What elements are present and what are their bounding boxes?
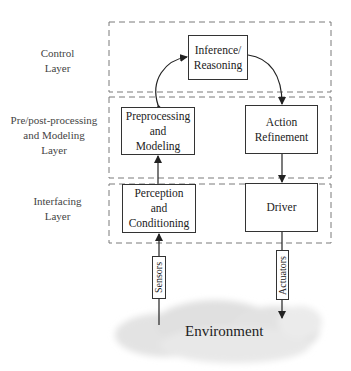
box-text: Driver [266, 200, 296, 215]
perception-conditioning-box: Perception and Conditioning [122, 184, 196, 233]
action-refinement-box: Action Refinement [245, 105, 318, 154]
layer-label-line: Pre/post-processing [0, 113, 108, 128]
layer-label-line: Control [20, 46, 95, 61]
box-text: Reasoning [194, 58, 243, 73]
sensors-text: Sensors [154, 262, 165, 293]
actuators-label-box: Actuators [276, 250, 289, 300]
inference-reasoning-box: Inference/ Reasoning [188, 35, 248, 80]
environment-label: Environment [185, 323, 263, 340]
box-text: Inference/ [194, 43, 243, 58]
box-text: Conditioning [129, 216, 190, 231]
modeling-layer-label: Pre/post-processing and Modeling Layer [0, 113, 108, 158]
interfacing-layer-label: Interfacing Layer [20, 194, 95, 224]
box-text: Perception [129, 186, 190, 201]
driver-box: Driver [245, 183, 318, 232]
actuators-text: Actuators [277, 256, 288, 295]
layer-label-line: Layer [0, 143, 108, 158]
box-text: and [126, 124, 191, 139]
box-text: Modeling [126, 139, 191, 154]
box-text: Refinement [255, 130, 309, 145]
box-text: and [129, 201, 190, 216]
preprocessing-modeling-box: Preprocessing and Modeling [121, 107, 195, 155]
preprocessing-inference-arrow [156, 57, 187, 105]
box-text: Action [255, 115, 309, 130]
layer-label-line: Interfacing [20, 194, 95, 209]
control-layer-label: Control Layer [20, 46, 95, 76]
layer-label-line: Layer [20, 61, 95, 76]
layer-label-line: Layer [20, 209, 95, 224]
layer-label-line: and Modeling [0, 128, 108, 143]
box-text: Preprocessing [126, 109, 191, 124]
sensors-label-box: Sensors [152, 256, 166, 299]
